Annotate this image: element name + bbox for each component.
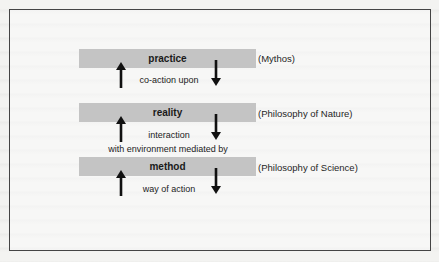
level-bar-practice: practice (79, 49, 256, 68)
connection-label-co-action: co-action upon (128, 75, 210, 85)
level-label-reality: reality (153, 107, 182, 118)
level-bar-method: method (79, 157, 256, 176)
arrow-up-icon (116, 170, 126, 196)
level-annotation-mythos: (Mythos) (258, 53, 295, 64)
level-bar-reality: reality (79, 103, 256, 122)
arrow-up-icon (116, 116, 126, 142)
level-label-method: method (149, 161, 185, 172)
connection-label-interaction: interaction (128, 130, 210, 140)
arrow-down-icon (211, 114, 221, 140)
level-label-practice: practice (148, 53, 186, 64)
connection-label-way-of-action: way of action (128, 184, 210, 194)
level-annotation-philosophy-of-science: (Philosophy of Science) (258, 162, 358, 173)
arrow-down-icon (211, 60, 221, 86)
arrow-up-icon (116, 62, 126, 88)
level-annotation-philosophy-of-nature: (Philosophy of Nature) (258, 108, 353, 119)
connection-label-mediated: with environment mediated by (88, 144, 248, 154)
arrow-down-icon (211, 168, 221, 194)
